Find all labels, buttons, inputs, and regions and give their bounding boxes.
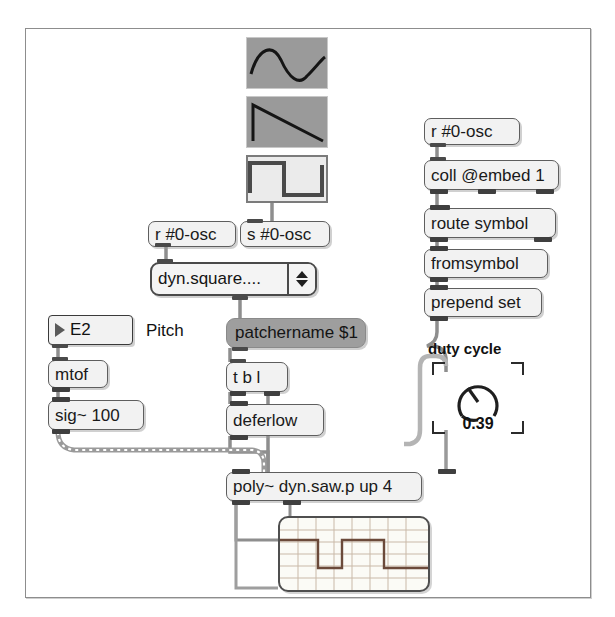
outlet-nub-3 — [536, 189, 554, 194]
object-text: t b l — [233, 369, 260, 386]
square-waveform-icon — [248, 157, 326, 201]
object-text: route symbol — [431, 215, 528, 232]
object-text: mtof — [55, 366, 88, 383]
object-text: s #0-osc — [247, 226, 311, 243]
chevron-down-icon[interactable] — [296, 280, 308, 287]
object-text: r #0-osc — [431, 123, 492, 140]
outlet-nub — [155, 243, 171, 247]
object-text: coll @embed 1 — [431, 167, 545, 184]
play-triangle-icon — [55, 323, 65, 337]
outlet-nub — [232, 296, 248, 300]
inlet-nub — [157, 259, 173, 263]
inlet-nub — [247, 219, 263, 223]
outlet-nub-2 — [478, 189, 496, 194]
inlet-nub — [52, 397, 70, 402]
square-waveform-thumbnail[interactable] — [246, 155, 328, 203]
outlet-nub — [430, 143, 446, 147]
send-osc-object[interactable]: s #0-osc — [240, 221, 330, 247]
message-text: patchername $1 — [235, 323, 358, 343]
scope-waveform-icon — [280, 518, 428, 590]
coll-object[interactable]: coll @embed 1 — [424, 160, 559, 190]
outlet-nub — [52, 387, 70, 392]
outlet-nub-1 — [430, 237, 448, 242]
inlet-nub — [430, 157, 446, 161]
prepend-set-object[interactable]: prepend set — [424, 288, 542, 317]
sawtooth-waveform-thumbnail[interactable] — [246, 96, 328, 148]
poly-object[interactable]: poly~ dyn.saw.p up 4 — [226, 472, 422, 501]
dial-value-text: 0.39 — [432, 415, 524, 433]
message-text: E2 — [70, 320, 91, 340]
outlet-nub-left — [232, 500, 250, 505]
sig-object[interactable]: sig~ 100 — [48, 400, 144, 430]
object-text: deferlow — [233, 412, 297, 429]
inlet-nub — [230, 401, 248, 406]
object-text: fromsymbol — [431, 255, 519, 272]
sine-waveform-thumbnail[interactable] — [246, 37, 328, 89]
inlet-nub — [430, 205, 450, 210]
outlet-nub-right — [283, 500, 301, 505]
outlet-nub — [230, 435, 248, 440]
inlet-nub — [52, 357, 68, 361]
duty-cycle-dial[interactable]: 0.39 — [432, 362, 524, 434]
object-text: sig~ 100 — [55, 407, 120, 424]
receive-osc-right-object[interactable]: r #0-osc — [424, 118, 520, 145]
outlet-nub-2 — [534, 237, 552, 242]
inlet-nub — [430, 285, 448, 290]
screenshot-root: r #0-osc s #0-osc dyn.square.... E2 Pitc… — [0, 0, 615, 617]
sawtooth-waveform-icon — [247, 97, 328, 148]
outlet-nub — [430, 316, 448, 321]
pitch-comment: Pitch — [146, 321, 184, 341]
patchername-message-box[interactable]: patchername $1 — [226, 318, 366, 348]
outlet-nub-1 — [430, 189, 448, 194]
waveform-umenu[interactable]: dyn.square.... — [150, 262, 317, 296]
duty-cycle-label: duty cycle — [428, 340, 501, 357]
chevron-up-icon[interactable] — [296, 271, 308, 278]
object-text: r #0-osc — [155, 226, 216, 243]
umenu-spinner[interactable] — [289, 264, 315, 294]
object-text: prepend set — [431, 294, 521, 311]
fromsymbol-object[interactable]: fromsymbol — [424, 249, 548, 278]
outlet-nub — [52, 344, 68, 348]
inlet-nub — [230, 359, 246, 363]
outlet-nub-left — [230, 391, 246, 396]
inlet-nub-right — [438, 469, 456, 474]
trigger-object[interactable]: t b l — [226, 362, 288, 392]
scope-display[interactable] — [278, 516, 430, 592]
mtof-object[interactable]: mtof — [48, 360, 108, 388]
inlet-nub-left — [232, 469, 250, 474]
pitch-message-box[interactable]: E2 — [48, 315, 133, 345]
object-text: poly~ dyn.saw.p up 4 — [233, 478, 392, 495]
outlet-nub — [232, 347, 248, 351]
outlet-nub — [430, 277, 448, 282]
route-symbol-object[interactable]: route symbol — [424, 208, 556, 238]
outlet-nub — [52, 429, 70, 434]
outlet-nub-right — [264, 391, 280, 396]
deferlow-object[interactable]: deferlow — [226, 404, 324, 436]
umenu-selected-value: dyn.square.... — [152, 264, 289, 294]
inlet-nub — [430, 246, 448, 251]
sine-waveform-icon — [247, 38, 328, 89]
